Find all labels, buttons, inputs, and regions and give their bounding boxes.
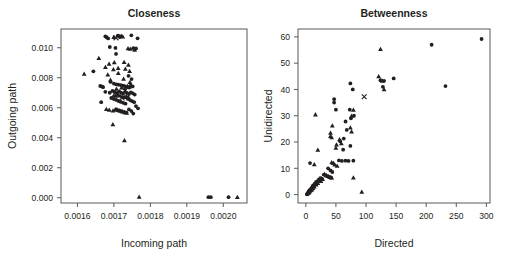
y-tick-label: 20 bbox=[280, 137, 290, 147]
data-point-triangle bbox=[96, 56, 101, 60]
data-point-circle bbox=[133, 93, 137, 97]
data-point-triangle bbox=[315, 148, 320, 152]
figure-container: Closeness0.00160.00170.00180.00190.00200… bbox=[0, 0, 516, 260]
data-point-triangle bbox=[107, 62, 112, 66]
x-tick-label: 250 bbox=[449, 211, 464, 221]
x-tick-label: 300 bbox=[479, 211, 494, 221]
y-tick-label: 10 bbox=[280, 164, 290, 174]
plot-frame bbox=[61, 29, 247, 203]
data-point-triangle bbox=[108, 78, 113, 82]
data-point-circle bbox=[348, 144, 352, 148]
data-point-circle bbox=[342, 137, 346, 141]
series-circle-markers bbox=[91, 33, 230, 199]
data-point-circle bbox=[91, 69, 95, 73]
data-point-triangle bbox=[127, 69, 132, 73]
data-point-circle bbox=[99, 100, 103, 104]
data-point-circle bbox=[227, 195, 231, 199]
data-point-triangle bbox=[313, 112, 318, 116]
x-tick-label: 0.0018 bbox=[137, 211, 164, 221]
y-axis-title: Unidirected bbox=[262, 89, 274, 142]
panel-betweenness: Betweenness05010015020025030001020304050… bbox=[258, 0, 516, 260]
data-point-circle bbox=[334, 108, 338, 112]
data-point-circle bbox=[480, 37, 484, 41]
data-point-circle bbox=[136, 36, 140, 40]
x-tick-label: 200 bbox=[419, 211, 434, 221]
x-tick-label: 100 bbox=[359, 211, 374, 221]
y-tick-label: 40 bbox=[280, 85, 290, 95]
data-point-triangle bbox=[235, 195, 240, 199]
data-point-triangle bbox=[105, 72, 110, 76]
data-point-triangle bbox=[122, 60, 127, 64]
data-point-triangle bbox=[351, 175, 356, 179]
data-point-circle bbox=[103, 90, 107, 94]
data-point-triangle bbox=[330, 123, 335, 127]
data-point-circle bbox=[430, 43, 434, 47]
x-axis-title: Incoming path bbox=[121, 237, 187, 249]
panel-title: Betweenness bbox=[360, 7, 427, 19]
data-point-circle bbox=[129, 33, 133, 37]
data-point-triangle bbox=[110, 122, 115, 126]
data-point-triangle bbox=[122, 138, 127, 142]
data-point-triangle bbox=[116, 71, 121, 75]
data-point-circle bbox=[348, 108, 352, 112]
series-circle-markers bbox=[305, 37, 483, 196]
data-point-circle bbox=[308, 161, 312, 165]
data-point-circle bbox=[332, 97, 336, 101]
data-point-triangle bbox=[359, 189, 364, 193]
data-point-circle bbox=[348, 82, 352, 86]
x-axis-title: Directed bbox=[374, 237, 413, 249]
x-tick-label: 0.0017 bbox=[101, 211, 128, 221]
x-tick-label: 150 bbox=[389, 211, 404, 221]
y-tick-label: 0.002 bbox=[31, 163, 53, 173]
data-point-triangle bbox=[348, 125, 353, 129]
x-tick-label: 50 bbox=[331, 211, 341, 221]
data-point-circle bbox=[444, 84, 448, 88]
data-point-circle bbox=[114, 52, 118, 56]
data-point-triangle bbox=[82, 72, 87, 76]
scatter-plot-closeness: Closeness0.00160.00170.00180.00190.00200… bbox=[0, 0, 258, 260]
data-point-circle bbox=[330, 170, 334, 174]
data-point-circle bbox=[340, 159, 344, 163]
x-tick-label: 0.0020 bbox=[210, 211, 237, 221]
y-tick-label: 60 bbox=[280, 32, 290, 42]
data-point-circle bbox=[114, 46, 118, 50]
data-point-triangle bbox=[351, 107, 356, 111]
y-tick-label: 30 bbox=[280, 111, 290, 121]
x-tick-label: 0 bbox=[303, 211, 308, 221]
y-tick-label: 0 bbox=[285, 190, 290, 200]
data-point-circle bbox=[344, 120, 348, 124]
data-point-circle bbox=[136, 106, 140, 110]
data-point-circle bbox=[106, 37, 110, 41]
data-point-circle bbox=[332, 101, 336, 105]
data-point-circle bbox=[124, 102, 128, 106]
panel-closeness: Closeness0.00160.00170.00180.00190.00200… bbox=[0, 0, 258, 260]
data-point-circle bbox=[392, 77, 396, 81]
data-point-circle bbox=[209, 195, 213, 199]
data-point-triangle bbox=[334, 142, 339, 146]
data-point-circle bbox=[108, 45, 112, 49]
data-point-triangle bbox=[337, 137, 342, 141]
data-point-triangle bbox=[111, 67, 116, 71]
data-point-triangle bbox=[137, 195, 142, 199]
y-tick-label: 50 bbox=[280, 58, 290, 68]
data-point-circle bbox=[127, 74, 131, 78]
data-point-circle bbox=[132, 100, 136, 104]
data-point-circle bbox=[131, 112, 135, 116]
data-point-triangle bbox=[312, 162, 317, 166]
data-point-circle bbox=[347, 159, 351, 163]
data-point-triangle bbox=[121, 77, 126, 81]
data-point-circle bbox=[351, 159, 355, 163]
data-point-triangle bbox=[123, 67, 128, 71]
data-point-triangle bbox=[376, 74, 381, 78]
scatter-plot-betweenness: Betweenness05010015020025030001020304050… bbox=[258, 0, 516, 260]
data-point-triangle bbox=[126, 62, 131, 66]
y-tick-label: 0.000 bbox=[31, 193, 53, 203]
y-tick-label: 0.006 bbox=[31, 103, 53, 113]
data-point-circle bbox=[341, 148, 345, 152]
y-tick-label: 0.004 bbox=[31, 133, 53, 143]
data-point-triangle bbox=[112, 60, 117, 64]
data-point-cross bbox=[362, 94, 367, 99]
data-point-triangle bbox=[378, 47, 383, 51]
y-axis-title: Outgoing path bbox=[6, 83, 18, 149]
data-point-circle bbox=[345, 128, 349, 132]
